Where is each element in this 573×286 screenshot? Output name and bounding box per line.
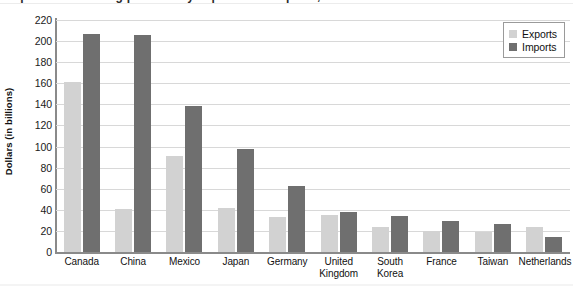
x-tick-label: Canada: [56, 256, 107, 268]
legend-label-imports: Imports: [522, 41, 556, 53]
x-tick-label: Mexico: [159, 256, 210, 268]
bar-imports[interactable]: [545, 237, 562, 252]
y-tick-label: 20: [20, 225, 52, 237]
bar-exports[interactable]: [372, 227, 389, 252]
y-tick-label: 180: [20, 56, 52, 68]
bar-exports[interactable]: [269, 217, 286, 252]
legend-item-imports[interactable]: Imports: [509, 40, 557, 53]
bar-imports[interactable]: [340, 212, 357, 252]
y-tick-label: 120: [20, 119, 52, 131]
x-tick-label: Japan: [210, 256, 261, 268]
bar-group: [210, 20, 261, 252]
x-tick-label: South Korea: [364, 256, 415, 279]
chart-title-clipped: Top ten U.S. trading partners by exports…: [0, 0, 573, 3]
axis-baseline: [56, 252, 570, 254]
bar-imports[interactable]: [288, 186, 305, 252]
bar-group: [262, 20, 313, 252]
x-tick-label: France: [416, 256, 467, 268]
bar-imports[interactable]: [442, 221, 459, 252]
bar-group: [159, 20, 210, 252]
y-tick-label: 140: [20, 98, 52, 110]
chart-legend: Exports Imports: [503, 22, 565, 58]
y-axis-tick-labels: 020406080100120140160180200220: [18, 20, 52, 252]
bar-exports[interactable]: [166, 156, 183, 252]
y-tick-label: 200: [20, 35, 52, 47]
bar-exports[interactable]: [526, 227, 543, 252]
bar-imports[interactable]: [494, 224, 511, 252]
bar-imports[interactable]: [83, 34, 100, 252]
y-tick-label: 160: [20, 77, 52, 89]
bar-exports[interactable]: [115, 209, 132, 252]
page-edge-top: [0, 3, 573, 4]
bar-imports[interactable]: [237, 149, 254, 252]
plot-area: [56, 20, 570, 252]
y-tick-label: 40: [20, 204, 52, 216]
x-tick-label: China: [107, 256, 158, 268]
bar-exports[interactable]: [218, 208, 235, 252]
bar-imports[interactable]: [391, 216, 408, 252]
bar-group: [416, 20, 467, 252]
x-tick-label: United Kingdom: [313, 256, 364, 279]
x-tick-label: Germany: [262, 256, 313, 268]
bar-group: [107, 20, 158, 252]
bar-exports[interactable]: [475, 232, 492, 252]
bar-imports[interactable]: [134, 35, 151, 252]
bar-exports[interactable]: [321, 215, 338, 252]
y-tick-label: 80: [20, 162, 52, 174]
bar-imports[interactable]: [185, 106, 202, 252]
y-tick-label: 220: [20, 14, 52, 26]
legend-label-exports: Exports: [522, 28, 557, 40]
bar-exports[interactable]: [64, 82, 81, 252]
x-tick-label: Taiwan: [467, 256, 518, 268]
bar-group: [313, 20, 364, 252]
y-tick-label: 60: [20, 183, 52, 195]
legend-item-exports[interactable]: Exports: [509, 27, 557, 40]
y-axis-title-text: Dollars (in billions): [4, 87, 15, 175]
legend-swatch-imports-icon: [509, 43, 517, 51]
x-tick-label: Netherlands: [519, 256, 570, 268]
legend-swatch-exports-icon: [509, 30, 517, 38]
bar-group: [364, 20, 415, 252]
y-tick-label: 0: [20, 246, 52, 258]
bar-group: [56, 20, 107, 252]
y-tick-label: 100: [20, 141, 52, 153]
y-axis-title: Dollars (in billions): [0, 0, 18, 262]
bar-exports[interactable]: [423, 231, 440, 252]
x-axis-category-labels: CanadaChinaMexicoJapanGermanyUnited King…: [56, 256, 570, 286]
bar-chart-figure: Top ten U.S. trading partners by exports…: [0, 0, 573, 286]
